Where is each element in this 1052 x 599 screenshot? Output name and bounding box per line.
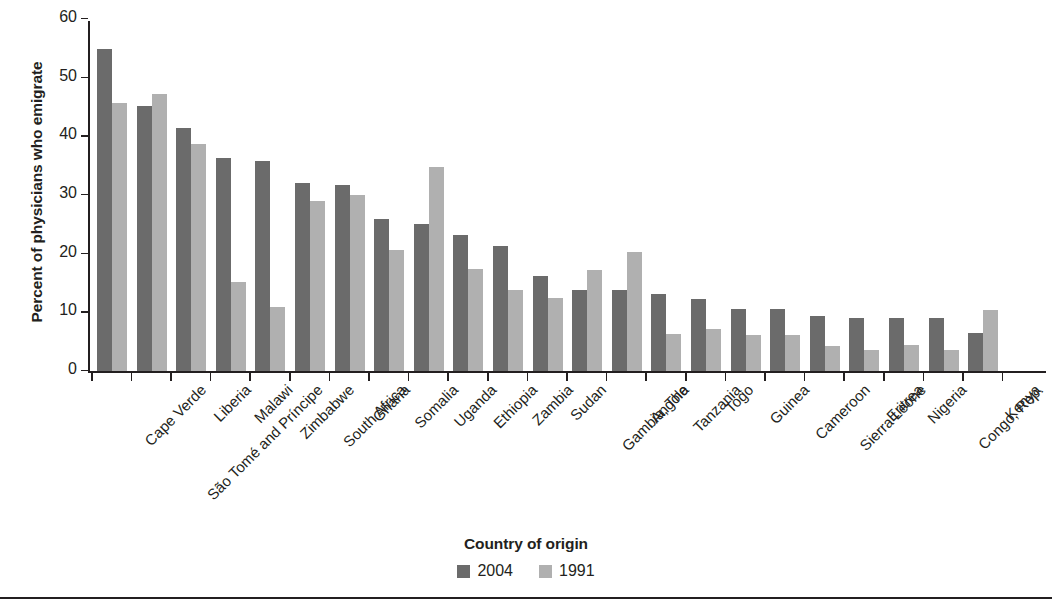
x-axis-tick [131,373,133,381]
legend-label: 1991 [559,562,595,580]
x-axis-label: Eritrea [883,381,926,424]
x-axis-tick [91,373,93,381]
bar-2004 [651,294,666,371]
x-axis-tick [408,373,410,381]
legend: Country of origin 20041991 [0,535,1052,580]
bar-2004 [968,333,983,371]
x-axis-label-text: Cape Verde [141,381,209,449]
bar-2004 [889,318,904,371]
bar-2004 [335,185,350,371]
bar-1991 [746,335,761,371]
x-axis-tick [210,373,212,381]
x-axis-label-text: Sudan [566,381,609,424]
x-axis-tick [566,373,568,381]
x-axis-label-text: Kenya [1002,381,1044,423]
bar-2004 [255,161,270,372]
bar-1991 [112,103,127,371]
x-axis-label-text: Liberia [210,381,254,425]
x-axis-tick [329,373,331,381]
x-axis-label: Angola [646,381,691,426]
bars-layer [88,21,1046,373]
bar-1991 [389,250,404,371]
bar-1991 [666,334,681,371]
legend-label: 2004 [477,562,513,580]
x-axis-tick [725,373,727,381]
x-axis-tick [843,373,845,381]
x-axis-label: Sudan [566,381,609,424]
x-axis-labels: Cape VerdeSão Tomé and PríncipeLiberiaMa… [88,381,1046,521]
x-axis-tick [883,373,885,381]
x-axis-label: Somalia [411,381,461,431]
legend-title: Country of origin [0,535,1052,553]
y-axis-tick: 50 [81,77,88,79]
bar-2004 [770,309,785,372]
x-axis-tick [764,373,766,381]
x-axis-label: Ethiopia [490,381,540,431]
legend-swatch-icon [539,565,552,578]
bar-2004 [97,49,112,372]
bar-chart: Percent of physicians who emigrate 01020… [0,0,1052,599]
bar-2004 [453,235,468,372]
bar-1991 [350,195,365,371]
y-axis-tick: 40 [81,135,88,137]
plot-area: 0102030405060 [88,21,1046,373]
legend-items: 20041991 [0,562,1052,580]
x-axis-tick [685,373,687,381]
x-axis-tick [606,373,608,381]
bar-1991 [627,252,642,371]
x-axis-tick [923,373,925,381]
bar-1991 [944,350,959,372]
y-axis-tick-label: 20 [59,243,77,261]
bar-2004 [216,158,231,371]
bar-1991 [785,335,800,371]
legend-item-1991[interactable]: 1991 [539,562,595,580]
bar-2004 [176,128,191,371]
y-axis-tick-label: 30 [59,184,77,202]
bar-2004 [572,290,587,371]
x-axis-tick [645,373,647,381]
bar-1991 [310,201,325,371]
y-axis-tick: 0 [81,370,88,372]
bar-1991 [429,167,444,372]
bar-2004 [691,299,706,371]
x-axis-label-text: Somalia [411,381,461,431]
y-axis-tick-label: 40 [59,125,77,143]
y-axis-tick: 20 [81,253,88,255]
bar-2004 [374,219,389,372]
bar-1991 [152,94,167,371]
bar-1991 [825,346,840,372]
y-axis-tick: 60 [81,18,88,20]
y-axis-tick: 30 [81,194,88,196]
bar-2004 [849,318,864,371]
x-axis-tick [170,373,172,381]
y-axis-tick-label: 10 [59,301,77,319]
y-axis-tick-label: 50 [59,67,77,85]
bar-2004 [810,316,825,372]
legend-item-2004[interactable]: 2004 [457,562,513,580]
x-axis-label: Kenya [1002,381,1044,423]
bar-2004 [929,318,944,371]
bar-1991 [983,310,998,372]
y-axis-title: Percent of physicians who emigrate [28,22,46,362]
bar-2004 [612,290,627,371]
bar-1991 [508,290,523,371]
bar-1991 [468,269,483,372]
x-axis-label-text: Angola [646,381,691,426]
x-axis-tick [962,373,964,381]
bar-1991 [587,270,602,371]
x-axis-tick [1002,373,1004,381]
bar-1991 [231,282,246,372]
bar-1991 [904,345,919,371]
bar-1991 [864,350,879,371]
x-axis-label: Nigeria [924,381,970,427]
x-axis-tick [804,373,806,381]
x-axis-label-text: Eritrea [883,381,926,424]
bar-1991 [548,298,563,371]
bar-1991 [270,307,285,372]
y-axis-tick-label: 0 [68,360,77,378]
bar-2004 [295,183,310,371]
x-axis-label-text: Nigeria [924,381,970,427]
bar-2004 [493,246,508,371]
y-axis-tick: 10 [81,311,88,313]
bar-2004 [731,309,746,372]
